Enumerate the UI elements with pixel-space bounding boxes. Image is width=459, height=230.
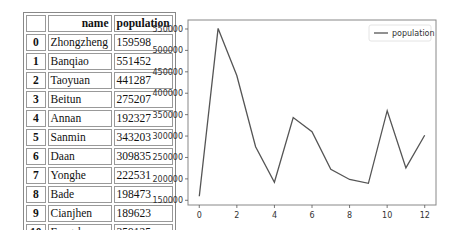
row-index: 9 xyxy=(26,205,46,222)
y-tick-label: 450000 xyxy=(152,68,183,77)
row-index: 2 xyxy=(26,72,46,89)
district-name-cell: Beitun xyxy=(48,91,112,108)
index-header xyxy=(26,15,46,32)
row-index: 4 xyxy=(26,110,46,127)
y-tick-label: 250000 xyxy=(152,153,183,162)
population-line-chart: 1500002000002500003000003500004000004500… xyxy=(150,0,459,230)
name-header: name xyxy=(48,15,112,32)
x-axis: 024681012 xyxy=(197,205,430,220)
row-index: 0 xyxy=(26,34,46,51)
y-tick-label: 350000 xyxy=(152,111,183,120)
district-name-cell: Banqiao xyxy=(48,53,112,70)
district-name-cell: Annan xyxy=(48,110,112,127)
row-index: 6 xyxy=(26,148,46,165)
y-tick-label: 550000 xyxy=(152,25,183,34)
y-tick-label: 200000 xyxy=(152,175,183,184)
x-tick-label: 2 xyxy=(234,211,239,220)
row-index: 8 xyxy=(26,186,46,203)
district-name-cell: Zhongzheng xyxy=(48,34,112,51)
x-tick-label: 10 xyxy=(382,211,392,220)
row-index: 7 xyxy=(26,167,46,184)
district-name-cell: Taoyuan xyxy=(48,72,112,89)
x-tick-label: 4 xyxy=(272,211,277,220)
y-tick-label: 300000 xyxy=(152,132,183,141)
x-tick-label: 8 xyxy=(347,211,352,220)
row-index: 5 xyxy=(26,129,46,146)
district-name-cell: Cianjhen xyxy=(48,205,112,222)
district-name-cell: Fengshan xyxy=(48,224,112,230)
legend: population xyxy=(369,25,435,41)
y-tick-label: 150000 xyxy=(152,196,183,205)
district-name-cell: Daan xyxy=(48,148,112,165)
x-tick-label: 0 xyxy=(197,211,202,220)
district-name-cell: Bade xyxy=(48,186,112,203)
y-axis: 1500002000002500003000003500004000004500… xyxy=(152,25,188,205)
row-index: 3 xyxy=(26,91,46,108)
x-tick-label: 12 xyxy=(420,211,430,220)
district-name-cell: Yonghe xyxy=(48,167,112,184)
row-index: 10 xyxy=(26,224,46,230)
legend-label: population xyxy=(392,29,435,38)
district-name-cell: Sanmin xyxy=(48,129,112,146)
y-tick-label: 400000 xyxy=(152,89,183,98)
y-tick-label: 500000 xyxy=(152,46,183,55)
row-index: 1 xyxy=(26,53,46,70)
x-tick-label: 6 xyxy=(309,211,314,220)
